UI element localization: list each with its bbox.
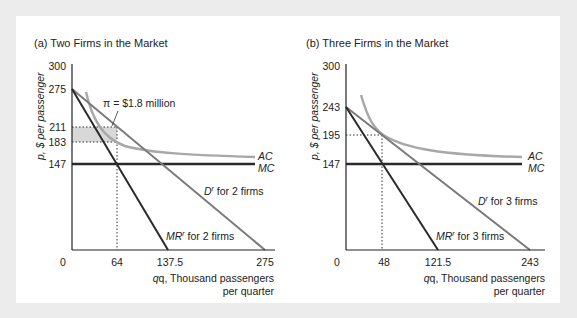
chart-b-xtick-48: 48	[378, 256, 390, 268]
chart-b-ylabel: p, $ per passenger	[308, 72, 320, 161]
chart-b-mc-label: MC	[528, 162, 545, 174]
chart-b-xlabel-text: q, Thousand passengers	[430, 272, 545, 284]
chart-a-mc-label: MC	[258, 162, 275, 174]
chart-a-mr-label: MRr for 2 firms	[166, 230, 234, 242]
chart-a-xtick-137-5: 137.5	[157, 256, 183, 268]
chart-a-xlabel-text: q, Thousand passengers	[159, 272, 274, 284]
chart-a-profit-area	[72, 127, 117, 142]
chart-a-ytick-147: 147	[48, 158, 66, 170]
chart-a-xtick-275: 275	[256, 256, 274, 268]
chart-a-title: (a) Two Firms in the Market	[34, 37, 168, 49]
chart-b-demand-line	[346, 107, 530, 250]
chart-a-ylabel: p, $ per passenger	[34, 72, 46, 161]
chart-b-ac-curve	[361, 95, 522, 157]
chart-b-ac-label: AC	[527, 150, 543, 162]
chart-a-ytick-300: 300	[48, 60, 66, 72]
chart-a-xlabel-2: per quarter	[223, 285, 275, 297]
chart-b-ytick-195: 195	[322, 129, 340, 141]
chart-b-ytick-243: 243	[322, 101, 340, 113]
chart-b-demand-label: Dr for 3 firms	[478, 195, 538, 207]
chart-a-xtick-0: 0	[60, 256, 66, 268]
chart-a-mr-line	[72, 89, 168, 250]
chart-b-ytick-300: 300	[322, 60, 340, 72]
charts-svg: (a) Two Firms in the Market p, $ per pas…	[0, 0, 577, 318]
chart-b-xtick-243: 243	[521, 256, 539, 268]
chart-a-xlabel-1: qq, Thousand passengers	[153, 272, 274, 284]
chart-a-ytick-275: 275	[48, 83, 66, 95]
chart-b: (b) Three Firms in the Market p, $ per p…	[306, 37, 545, 297]
chart-a: (a) Two Firms in the Market p, $ per pas…	[34, 37, 275, 297]
chart-b-xtick-121-5: 121.5	[425, 256, 451, 268]
chart-a-ytick-211: 211	[49, 121, 66, 133]
chart-b-ytick-147: 147	[322, 158, 340, 170]
chart-a-ylabel-text: p, $ per passenger	[34, 72, 46, 161]
chart-b-title: (b) Three Firms in the Market	[306, 37, 448, 49]
chart-b-ylabel-text: p, $ per passenger	[308, 72, 320, 161]
chart-a-demand-line	[72, 89, 265, 250]
chart-b-xtick-0: 0	[334, 256, 340, 268]
chart-b-xlabel-2: per quarter	[494, 285, 546, 297]
chart-b-mr-line	[346, 107, 438, 250]
chart-a-xtick-64: 64	[111, 256, 123, 268]
chart-a-ac-label: AC	[257, 150, 273, 162]
chart-a-demand-label: Dr for 2 firms	[204, 185, 264, 197]
chart-b-xlabel-1: qq, Thousand passengers	[424, 272, 545, 284]
chart-a-ytick-183: 183	[48, 136, 66, 148]
chart-a-profit-label: π = $1.8 million	[103, 97, 175, 109]
chart-b-mr-label: MRr for 3 firms	[436, 230, 504, 242]
